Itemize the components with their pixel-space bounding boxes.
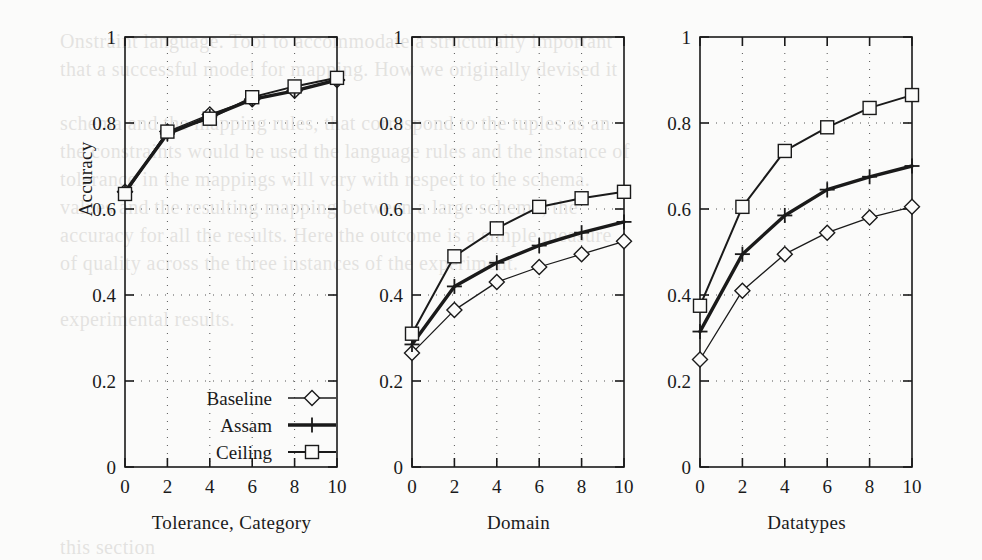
y-tick-label: 0.4 bbox=[92, 285, 116, 306]
series-baseline bbox=[118, 73, 345, 200]
x-tick-label: 0 bbox=[120, 476, 130, 497]
marker-square bbox=[618, 185, 631, 198]
marker-square bbox=[203, 112, 216, 125]
marker-square bbox=[246, 91, 259, 104]
y-tick-label: 1 bbox=[682, 27, 692, 48]
y-tick-label: 0.4 bbox=[379, 285, 403, 306]
marker-square bbox=[533, 200, 546, 213]
y-tick-label: 0 bbox=[394, 457, 404, 478]
x-tick-label: 10 bbox=[903, 476, 922, 497]
x-tick-label: 8 bbox=[577, 476, 587, 497]
series-line bbox=[412, 192, 624, 334]
marker-diamond bbox=[574, 247, 589, 262]
y-tick-label: 0.8 bbox=[667, 113, 691, 134]
marker-plus bbox=[862, 169, 877, 184]
x-tick-label: 2 bbox=[163, 476, 173, 497]
marker-plus bbox=[820, 182, 835, 197]
y-tick-label: 0.6 bbox=[379, 199, 403, 220]
marker-diamond bbox=[693, 352, 708, 367]
marker-square bbox=[906, 89, 919, 102]
marker-plus bbox=[532, 238, 547, 253]
marker-plus bbox=[574, 225, 589, 240]
legend-label-assam: Assam bbox=[220, 415, 272, 436]
marker-square bbox=[119, 187, 132, 200]
x-tick-label: 6 bbox=[534, 476, 544, 497]
series-line bbox=[412, 222, 624, 345]
y-tick-label: 0.2 bbox=[667, 371, 691, 392]
panel-2: 00.20.40.60.810246810 bbox=[379, 27, 633, 497]
legend-label-baseline: Baseline bbox=[207, 388, 272, 409]
y-axis-label: Accuracy bbox=[75, 99, 97, 259]
marker-square bbox=[736, 200, 749, 213]
x-tick-label: 10 bbox=[615, 476, 634, 497]
marker-square bbox=[821, 121, 834, 134]
series-assam bbox=[118, 73, 345, 200]
y-tick-label: 0.4 bbox=[667, 285, 691, 306]
marker-diamond bbox=[489, 275, 504, 290]
x-axis-label-panel-2: Domain bbox=[412, 512, 625, 534]
panel-3: 00.20.40.60.810246810 bbox=[667, 27, 921, 497]
marker-square bbox=[161, 125, 174, 138]
y-tick-label: 0 bbox=[682, 457, 692, 478]
marker-square bbox=[306, 446, 319, 459]
x-tick-label: 6 bbox=[247, 476, 257, 497]
legend: BaselineAssamCeiling bbox=[207, 388, 336, 463]
marker-plus bbox=[617, 214, 632, 229]
series-line bbox=[125, 80, 337, 192]
marker-diamond bbox=[305, 391, 320, 406]
plot-frame bbox=[700, 37, 912, 467]
y-tick-label: 0.8 bbox=[379, 113, 403, 134]
series-line bbox=[125, 78, 337, 194]
y-tick-label: 0 bbox=[107, 457, 117, 478]
x-axis-label-panel-3: Datatypes bbox=[700, 512, 913, 534]
marker-square bbox=[406, 327, 419, 340]
y-tick-label: 0.2 bbox=[379, 371, 403, 392]
x-tick-label: 8 bbox=[290, 476, 300, 497]
x-tick-label: 4 bbox=[492, 476, 502, 497]
x-tick-label: 4 bbox=[205, 476, 215, 497]
marker-square bbox=[863, 101, 876, 114]
series-ceiling bbox=[119, 71, 344, 200]
x-tick-label: 0 bbox=[407, 476, 417, 497]
legend-label-ceiling: Ceiling bbox=[216, 442, 272, 463]
marker-square bbox=[575, 192, 588, 205]
series-line bbox=[125, 80, 337, 192]
x-tick-label: 4 bbox=[780, 476, 790, 497]
y-tick-label: 0.2 bbox=[92, 371, 116, 392]
x-tick-label: 6 bbox=[822, 476, 832, 497]
marker-plus bbox=[905, 159, 920, 174]
three-panel-accuracy-figure: 00.20.40.60.81024681000.20.40.60.8102468… bbox=[0, 0, 982, 560]
marker-square bbox=[448, 250, 461, 263]
marker-diamond bbox=[532, 260, 547, 275]
marker-square bbox=[288, 80, 301, 93]
y-tick-label: 0.6 bbox=[667, 199, 691, 220]
marker-diamond bbox=[905, 199, 920, 214]
x-tick-label: 8 bbox=[865, 476, 875, 497]
x-tick-label: 2 bbox=[738, 476, 748, 497]
x-tick-label: 2 bbox=[450, 476, 460, 497]
marker-plus bbox=[305, 418, 320, 433]
series-assam bbox=[693, 159, 920, 340]
marker-diamond bbox=[617, 234, 632, 249]
plot-frame bbox=[412, 37, 624, 467]
marker-diamond bbox=[862, 210, 877, 225]
x-axis-label-panel-1: Tolerance, Category bbox=[125, 512, 338, 534]
series-line bbox=[412, 241, 624, 353]
marker-square bbox=[331, 71, 344, 84]
x-tick-label: 10 bbox=[328, 476, 347, 497]
marker-diamond bbox=[820, 225, 835, 240]
y-tick-label: 1 bbox=[394, 27, 404, 48]
marker-plus bbox=[489, 255, 504, 270]
chart-canvas: 00.20.40.60.81024681000.20.40.60.8102468… bbox=[0, 0, 982, 560]
x-tick-label: 0 bbox=[695, 476, 705, 497]
marker-plus bbox=[693, 324, 708, 339]
marker-square bbox=[778, 144, 791, 157]
y-tick-label: 1 bbox=[107, 27, 117, 48]
marker-square bbox=[490, 222, 503, 235]
marker-square bbox=[694, 299, 707, 312]
